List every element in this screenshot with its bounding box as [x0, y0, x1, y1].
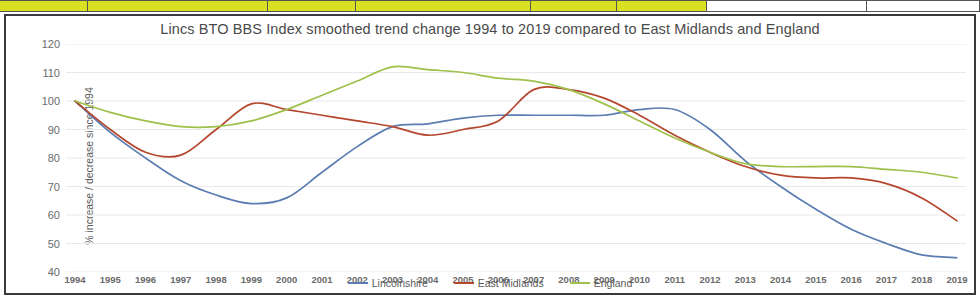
legend-color-swatch [454, 282, 474, 285]
y-axis-tick: 80 [30, 152, 60, 164]
gridlines [66, 44, 966, 272]
spreadsheet-cell[interactable] [707, 1, 867, 11]
legend-color-swatch [570, 282, 590, 285]
series-line-east-midlands [75, 87, 957, 221]
series-line-england [75, 66, 957, 178]
plot-area [66, 44, 966, 272]
legend-label: England [594, 277, 633, 289]
legend-item-east-midlands[interactable]: East Midlands [454, 277, 544, 289]
series-line-lincolnshire [75, 101, 957, 258]
legend-color-swatch [348, 282, 368, 285]
spreadsheet-cell[interactable] [268, 1, 356, 11]
series-lines [75, 66, 957, 257]
y-axis-tick: 100 [30, 95, 60, 107]
legend-item-lincolnshire[interactable]: Lincolnshire [348, 277, 428, 289]
y-axis-tick: 50 [30, 238, 60, 250]
line-chart-svg [66, 44, 966, 272]
legend-label: East Midlands [478, 277, 544, 289]
y-axis-tick: 120 [30, 38, 60, 50]
spreadsheet-cell[interactable] [617, 1, 707, 11]
y-axis-tick: 90 [30, 124, 60, 136]
y-axis-tick: 70 [30, 181, 60, 193]
chart-legend: LincolnshireEast MidlandsEngland [6, 277, 974, 289]
y-axis-tick: 60 [30, 209, 60, 221]
spreadsheet-cell[interactable] [0, 1, 88, 11]
legend-item-england[interactable]: England [570, 277, 633, 289]
spreadsheet-cell[interactable] [867, 1, 980, 11]
spreadsheet-cell[interactable] [88, 1, 268, 11]
chart-card: Lincs BTO BBS Index smoothed trend chang… [4, 14, 976, 295]
legend-label: Lincolnshire [372, 277, 428, 289]
spreadsheet-cell[interactable] [531, 1, 617, 11]
chart-title: Lincs BTO BBS Index smoothed trend chang… [6, 21, 974, 37]
y-axis-tick: 110 [30, 67, 60, 79]
spreadsheet-cell[interactable] [356, 1, 531, 11]
y-axis-tick-labels: 120110100908070605040 [28, 44, 60, 272]
spreadsheet-row-strip [0, 0, 980, 12]
